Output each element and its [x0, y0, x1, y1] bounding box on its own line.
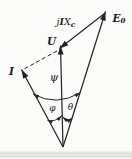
- vector-i-label: I: [8, 65, 15, 77]
- scan-shadow: [0, 152, 132, 159]
- vector-e0: [63, 12, 106, 148]
- vector-u-label: U: [47, 35, 57, 47]
- phasor-diagram-figure: I U E0 jIXc ψ φ θ: [0, 0, 132, 158]
- psi-angle-arc: [33, 93, 81, 101]
- vector-e0-label: E0: [112, 12, 126, 26]
- dashed-projection-line: [24, 51, 57, 69]
- phasor-diagram-canvas: I U E0 jIXc ψ φ θ: [0, 0, 132, 158]
- psi-angle-label: ψ: [50, 71, 59, 84]
- jixc-subscript: c: [71, 20, 76, 29]
- e0-subscript: 0: [121, 16, 126, 25]
- vector-u: [61, 46, 64, 148]
- theta-arc-left-arrowhead: [63, 117, 69, 122]
- phi-arc-right-arrowhead: [57, 116, 63, 122]
- theta-angle-label: θ: [68, 102, 74, 112]
- vector-jixc-label: jIXc: [55, 16, 76, 29]
- phi-angle-label: φ: [49, 103, 56, 113]
